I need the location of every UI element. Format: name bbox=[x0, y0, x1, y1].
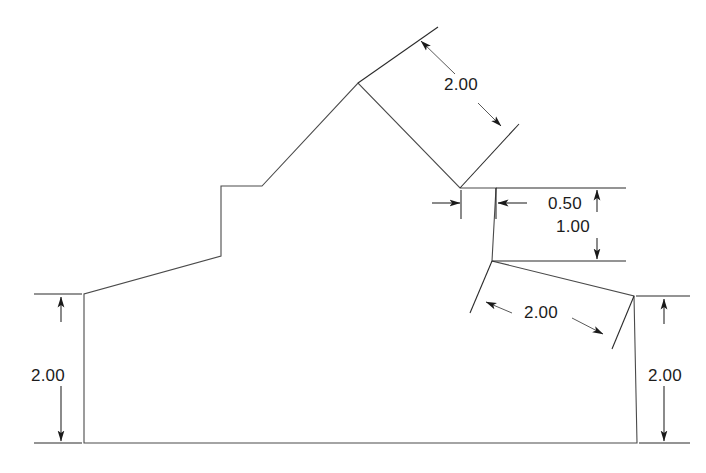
leader-top-upper bbox=[421, 41, 455, 74]
cad-drawing-svg: 2.00 0.50 1.00 bbox=[0, 0, 706, 473]
dim-label-lower-right-slant: 2.00 bbox=[524, 303, 558, 322]
dimension-right-height: 2.00 bbox=[636, 296, 690, 443]
part-outline-group bbox=[84, 83, 637, 443]
leader-slant-right bbox=[572, 318, 603, 334]
dimension-lower-right-slant: 2.00 bbox=[470, 261, 634, 349]
technical-drawing-canvas: 2.00 0.50 1.00 bbox=[0, 0, 706, 473]
dim-label-right-height: 2.00 bbox=[648, 366, 682, 385]
part-outline-path bbox=[84, 83, 637, 443]
ext-line-top-start bbox=[358, 27, 438, 83]
dim-label-top-diagonal: 2.00 bbox=[444, 75, 478, 94]
ext-line-slant-end bbox=[612, 296, 634, 349]
leader-slant-left bbox=[486, 302, 512, 313]
ext-line-top-end bbox=[460, 124, 519, 188]
dimension-left-height: 2.00 bbox=[31, 294, 82, 443]
dimension-notch-width: 0.50 bbox=[432, 188, 582, 219]
dim-label-notch-depth: 1.00 bbox=[556, 217, 590, 236]
dim-label-left-height: 2.00 bbox=[31, 366, 65, 385]
leader-top-lower bbox=[478, 103, 501, 126]
ext-line-slant-start bbox=[470, 261, 492, 313]
dim-label-notch-width: 0.50 bbox=[548, 194, 582, 213]
